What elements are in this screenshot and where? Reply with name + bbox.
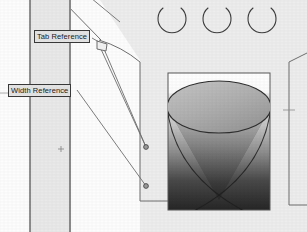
leader-endpoint-lower [144,184,149,189]
callout-tab-reference: Tab Reference [34,30,90,43]
callout-width-reference: Width Reference [8,84,71,97]
leader-endpoint-upper [144,145,149,150]
drawing-canvas: Tab Reference Width Reference [0,0,307,232]
cone-top-face [167,81,271,133]
cone-render-panel [167,73,271,212]
